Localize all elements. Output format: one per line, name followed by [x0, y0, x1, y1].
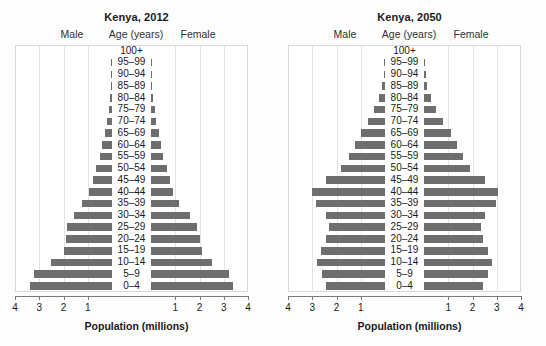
age-group-label: 10–14 — [112, 256, 152, 268]
bar-female — [151, 188, 173, 196]
age-group-label: 40–44 — [112, 186, 152, 198]
bar-male — [326, 212, 385, 220]
pyramid-row: 95–99 — [288, 57, 521, 69]
chart-title: Kenya, 2012 — [0, 11, 273, 23]
bar-female — [424, 270, 488, 278]
pyramid-row: 70–74 — [15, 116, 248, 128]
x-tick-label: 2 — [190, 302, 210, 313]
x-tick-label: 1 — [438, 302, 458, 313]
pyramid-row: 80–84 — [15, 92, 248, 104]
pyramid-row: 75–79 — [15, 104, 248, 116]
bar-female — [151, 282, 233, 290]
x-tick — [15, 296, 16, 300]
bar-female — [424, 129, 451, 137]
pyramid-row: 65–69 — [15, 127, 248, 139]
pyramid-row: 95–99 — [15, 57, 248, 69]
chart-panel-2050: Kenya, 2050 Male Age (years) Female 100+… — [273, 0, 546, 346]
x-tick-label: 4 — [238, 302, 258, 313]
age-group-label: 20–24 — [112, 233, 152, 245]
pyramid-row: 0–4 — [15, 280, 248, 292]
x-tick — [448, 296, 449, 300]
bar-male — [51, 259, 112, 267]
x-tick — [224, 296, 225, 300]
age-group-label: 20–24 — [385, 233, 425, 245]
bar-female — [151, 176, 170, 184]
age-group-label: 30–34 — [385, 209, 425, 221]
x-tick-label: 4 — [5, 302, 25, 313]
age-group-label: 50–54 — [112, 162, 152, 174]
bar-female — [151, 118, 156, 126]
age-group-label: 35–39 — [385, 197, 425, 209]
x-tick-label: 1 — [165, 302, 185, 313]
bar-female — [151, 259, 212, 267]
x-tick-label: 3 — [487, 302, 507, 313]
bar-female — [424, 235, 483, 243]
pyramid-row: 5–9 — [288, 268, 521, 280]
pyramid-row: 55–59 — [15, 151, 248, 163]
x-tick-label: 3 — [302, 302, 322, 313]
column-headers: Male Age (years) Female — [0, 28, 273, 42]
bar-female — [151, 106, 155, 114]
pyramid-row: 30–34 — [15, 210, 248, 222]
bar-female — [424, 106, 436, 114]
female-header: Female — [433, 28, 509, 40]
bar-female — [424, 94, 431, 102]
age-group-label: 40–44 — [385, 186, 425, 198]
bar-male — [34, 270, 112, 278]
bar-male — [326, 282, 385, 290]
pyramid-row: 35–39 — [15, 198, 248, 210]
female-header: Female — [160, 28, 236, 40]
x-tick — [521, 296, 522, 300]
bar-male — [96, 165, 112, 173]
bar-female — [151, 212, 190, 220]
bar-female — [424, 212, 485, 220]
x-tick-label: 3 — [214, 302, 234, 313]
x-tick — [88, 296, 89, 300]
age-group-label: 60–64 — [112, 139, 152, 151]
bar-female — [151, 129, 159, 137]
age-group-label: 60–64 — [385, 139, 425, 151]
bar-male — [326, 176, 385, 184]
bar-female — [151, 235, 200, 243]
x-tick — [175, 296, 176, 300]
pyramid-row: 85–89 — [15, 80, 248, 92]
age-group-label: 85–89 — [385, 80, 425, 92]
bar-male — [316, 200, 385, 208]
x-tick-label: 3 — [29, 302, 49, 313]
bar-female — [424, 153, 463, 161]
age-group-label: 85–89 — [112, 80, 152, 92]
bar-female — [151, 165, 167, 173]
chart-title: Kenya, 2050 — [273, 11, 546, 23]
bar-female — [424, 188, 498, 196]
age-group-label: 0–4 — [385, 280, 425, 292]
x-tick — [337, 296, 338, 300]
bar-male — [326, 235, 385, 243]
x-tick-label: 4 — [278, 302, 298, 313]
pyramid-row: 45–49 — [288, 174, 521, 186]
pyramid-rows: 100+95–9990–9485–8980–8475–7970–7465–696… — [15, 45, 248, 292]
pyramid-row: 65–69 — [288, 127, 521, 139]
bar-female — [151, 141, 161, 149]
bar-female — [424, 223, 481, 231]
pyramid-row: 25–29 — [15, 221, 248, 233]
pyramid-row: 70–74 — [288, 116, 521, 128]
age-group-label: 45–49 — [385, 174, 425, 186]
bar-female — [151, 247, 202, 255]
pyramid-row: 45–49 — [15, 174, 248, 186]
bar-female — [151, 200, 179, 208]
pyramid-row: 15–19 — [15, 245, 248, 257]
pyramid-row: 0–4 — [288, 280, 521, 292]
x-tick — [473, 296, 474, 300]
bar-female — [151, 270, 229, 278]
bar-male — [312, 188, 385, 196]
bar-female — [424, 282, 483, 290]
pyramid-row: 40–44 — [15, 186, 248, 198]
x-tick-label: 2 — [327, 302, 347, 313]
x-tick-label: 2 — [463, 302, 483, 313]
x-axis-title: Population (millions) — [273, 320, 546, 332]
age-group-label: 5–9 — [385, 268, 425, 280]
bar-male — [93, 176, 112, 184]
pyramid-row: 60–64 — [15, 139, 248, 151]
x-tick — [64, 296, 65, 300]
bar-male — [74, 212, 112, 220]
